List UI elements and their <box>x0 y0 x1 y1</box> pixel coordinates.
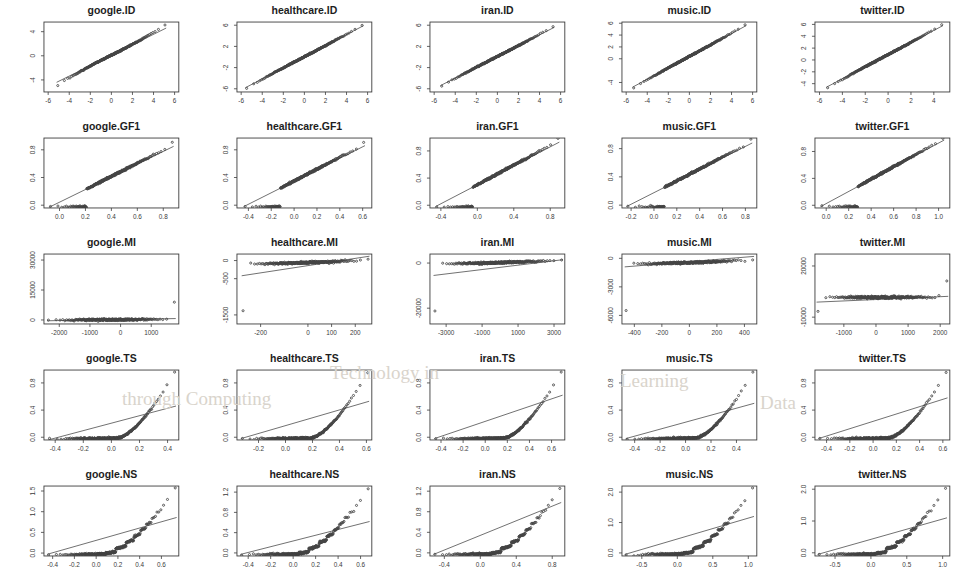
y-tick-label: 0.8 <box>221 145 228 154</box>
y-axis: 0.00.40.8 <box>800 147 815 210</box>
qq-panel-music-gf1: music.GF1-0.20.00.20.40.60.80.00.40.8 <box>578 116 771 232</box>
x-tick-label: 100 <box>326 329 337 336</box>
x-tick-label: -1000 <box>474 329 491 336</box>
x-tick-label: 0.2 <box>502 445 511 452</box>
y-axis: 0.00.40.8 <box>607 144 622 210</box>
y-tick-label: -500 <box>221 272 228 285</box>
y-tick-label: -10000 <box>800 307 807 327</box>
x-tick-label: 0.0 <box>289 213 298 220</box>
x-tick-label: 1.0 <box>938 561 947 568</box>
x-tick-label: 1000 <box>901 329 916 336</box>
y-tick-label: 0 <box>607 256 614 260</box>
y-axis: 0-500-1500 <box>221 258 236 323</box>
data-points <box>827 24 943 89</box>
x-tick-label: 4 <box>152 97 156 104</box>
y-tick-label: 0.0 <box>607 432 614 441</box>
y-tick-label: 0.4 <box>29 173 36 182</box>
x-tick-label: -0.2 <box>253 445 264 452</box>
x-tick-label: -4 <box>452 97 458 104</box>
panel-title: healthcare.NS <box>269 469 339 480</box>
x-tick-label: -0.4 <box>438 561 449 568</box>
y-tick-label: 4 <box>607 33 614 37</box>
y-tick-label: 0.0 <box>221 200 228 209</box>
y-tick-label: -1500 <box>221 306 228 323</box>
qq-panel-healthcare-ts: healthcare.TS-0.20.00.20.40.60.00.40.8 <box>193 348 386 464</box>
y-tick-label: 0.0 <box>221 432 228 441</box>
x-tick-label: 2 <box>909 97 913 104</box>
y-tick-label: 0.4 <box>414 405 421 414</box>
y-tick-label: 0.4 <box>414 527 421 536</box>
plot-frame <box>237 486 372 556</box>
x-tick-label: 0.4 <box>696 213 705 220</box>
qq-reference-line <box>47 517 176 554</box>
panel-title: iran.TS <box>479 353 515 364</box>
plot-frame <box>44 138 179 208</box>
qq-panel-google-id: google.ID-6-4-20246-404 <box>0 0 193 116</box>
x-tick-label: 0 <box>302 97 306 104</box>
y-tick-label: 0 <box>800 58 807 62</box>
plot-frame <box>44 370 179 440</box>
x-tick-label: -0.4 <box>242 561 253 568</box>
panel-title: iran.NS <box>479 469 516 480</box>
x-tick-label: -4 <box>66 97 72 104</box>
x-axis: -6-4-20246 <box>238 92 369 104</box>
x-tick-label: -0.4 <box>243 213 254 220</box>
x-tick-label: 0.0 <box>55 213 64 220</box>
x-tick-label: -2 <box>473 97 479 104</box>
x-axis: 0.00.20.40.60.8 <box>55 208 168 220</box>
x-tick-label: 0.6 <box>133 213 142 220</box>
qq-panel-twitter-id: twitter.ID-6-4-2024-4-20246 <box>771 0 964 116</box>
x-tick-label: -0.2 <box>78 445 89 452</box>
x-tick-label: 0.6 <box>939 445 948 452</box>
y-axis: -6-226 <box>221 23 236 92</box>
x-axis: -400-2000200400 <box>628 324 750 336</box>
y-tick-label: 1.0 <box>607 518 614 527</box>
x-tick-label: 3000 <box>547 329 562 336</box>
y-axis: 0.00.40.81.2 <box>221 487 236 557</box>
x-tick-label: -0.2 <box>845 445 856 452</box>
y-tick-label: 1.2 <box>221 487 228 496</box>
x-tick-label: 4 <box>537 97 541 104</box>
x-tick-label: -6 <box>238 97 244 104</box>
y-axis: 0.00.40.8 <box>800 378 815 442</box>
x-tick-label: 0.6 <box>362 445 371 452</box>
data-points <box>48 487 177 557</box>
panel-title: iran.GF1 <box>476 121 519 132</box>
x-tick-label: 0.8 <box>545 213 554 220</box>
x-tick-label: 0.2 <box>673 213 682 220</box>
y-tick-label: 2.0 <box>607 487 614 496</box>
panel-title: healthcare.MI <box>271 237 338 248</box>
x-tick-label: 0.4 <box>135 561 144 568</box>
data-points <box>625 259 754 312</box>
data-points <box>57 24 166 87</box>
y-tick-label: 0.8 <box>800 378 807 387</box>
x-tick-label: -0.2 <box>626 213 637 220</box>
y-tick-label: -6 <box>414 85 421 91</box>
x-axis: 0.00.20.40.60.81.0 <box>822 208 944 220</box>
x-tick-label: -1000 <box>836 329 853 336</box>
data-points <box>433 259 562 312</box>
x-tick-label: 0 <box>887 97 891 104</box>
plot-frame <box>622 486 757 556</box>
qq-reference-line <box>48 406 176 440</box>
y-tick-label: 4 <box>29 29 36 33</box>
y-tick-label: 0.4 <box>221 528 228 537</box>
y-tick-label: 0 <box>607 57 614 61</box>
x-tick-label: 0.0 <box>867 561 876 568</box>
qq-panel-google-ts: google.TS-0.4-0.20.00.20.40.00.40.8 <box>0 348 193 464</box>
x-tick-label: 0.2 <box>312 213 321 220</box>
x-tick-label: -3000 <box>438 329 455 336</box>
x-tick-label: 0.0 <box>822 213 831 220</box>
x-tick-label: 0.5 <box>903 561 912 568</box>
x-tick-label: 0.6 <box>157 561 166 568</box>
y-tick-label: 0.0 <box>607 548 614 557</box>
x-tick-label: 0.8 <box>741 213 750 220</box>
x-tick-label: 0 <box>119 329 123 336</box>
panel-title: twitter.NS <box>858 469 906 480</box>
x-axis: -2000-100001000 <box>51 324 159 336</box>
plot-frame <box>815 370 950 440</box>
y-tick-label: 0.8 <box>414 146 421 155</box>
data-points <box>440 26 553 88</box>
x-tick-label: 0.4 <box>511 561 520 568</box>
x-axis: -6-4-20246 <box>431 92 562 104</box>
